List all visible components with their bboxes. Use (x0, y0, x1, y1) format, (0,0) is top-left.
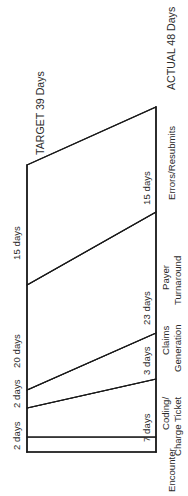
actual-total-label: ACTUAL 48 Days (165, 7, 177, 90)
target-claims-days-label: 20 days (11, 334, 22, 368)
category-labels: Encounter Coding/ Charge Ticket Claims G… (160, 126, 183, 492)
category-label-errors-resubmits: Errors/Resubmits (166, 126, 177, 200)
band-encounter (27, 437, 156, 452)
target-coding-days-label: 2 days (11, 379, 22, 408)
chart-canvas: 2 days 2 days 20 days 15 days 7 days 3 d… (0, 0, 188, 496)
category-label-payer-line2: Turnaround (172, 256, 183, 305)
target-encounter-days-label: 2 days (11, 421, 22, 450)
category-label-payer-line1: Payer (160, 264, 171, 290)
category-label-coding-line2: Charge Ticket (172, 396, 183, 456)
category-label-claims-line2: Generation (172, 325, 183, 372)
target-total-label: TARGET 39 Days (34, 71, 46, 155)
actual-errors-days-label: 15 days (141, 171, 152, 205)
actual-coding-days-label: 7 days (141, 413, 152, 442)
actual-claims-days-label: 3 days (141, 346, 152, 375)
actual-payer-days-label: 23 days (141, 291, 152, 325)
band-group (27, 107, 156, 452)
category-label-coding-line1: Coding/ (160, 397, 171, 430)
category-label-claims-line1: Claims (160, 325, 171, 355)
revenue-cycle-timeline-chart: 2 days 2 days 20 days 15 days 7 days 3 d… (0, 0, 188, 496)
target-payer-days-label: 15 days (11, 226, 22, 260)
target-value-labels: 2 days 2 days 20 days 15 days (11, 226, 22, 450)
